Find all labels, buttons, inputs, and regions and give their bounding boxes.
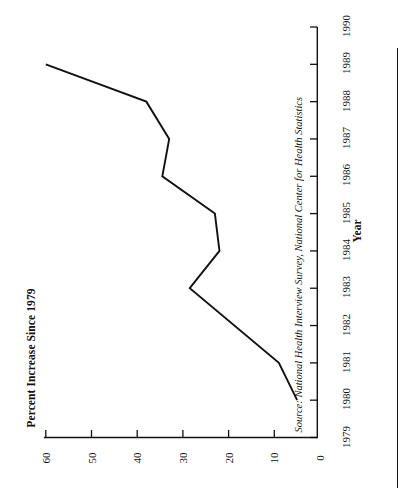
year-tick-label: 1987 [340,121,352,155]
percent-tick-label: 30 [177,445,189,471]
year-tick-label: 1981 [340,345,352,379]
data-line [46,64,297,400]
percent-tick-label: 0 [314,445,326,471]
percent-tick-label: 10 [268,445,280,471]
year-tick-label: 1988 [340,84,352,118]
percent-axis-ticks [46,430,274,438]
year-tick-label: 1985 [340,196,352,230]
year-tick-label: 1979 [340,420,352,454]
year-tick-label: 1990 [340,9,352,43]
year-axis-ticks [310,27,317,438]
year-tick-label: 1980 [340,382,352,416]
year-tick-label: 1982 [340,308,352,342]
year-tick-label: 1986 [340,158,352,192]
year-tick-label: 1989 [340,46,352,80]
percent-tick-label: 20 [223,445,235,471]
percent-tick-label: 50 [86,445,98,471]
year-tick-label: 1984 [340,233,352,267]
chart-figure: Percent Increase Since 1979 Year Source:… [0,0,416,501]
year-tick-label: 1983 [340,270,352,304]
percent-tick-label: 40 [131,445,143,471]
plot-area [0,0,416,501]
percent-tick-label: 60 [40,445,52,471]
